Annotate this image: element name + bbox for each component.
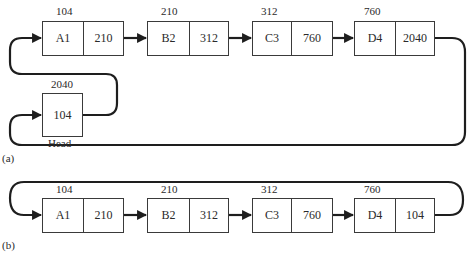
node-address: 312 xyxy=(261,183,278,195)
list-node-a1: A1 210 xyxy=(42,198,124,233)
head-address: 2040 xyxy=(51,78,73,90)
node-address: 104 xyxy=(56,183,73,195)
node-next-cell: 210 xyxy=(83,22,123,55)
list-node-c3: C3 760 xyxy=(252,198,333,233)
node-next-cell: 104 xyxy=(395,199,434,232)
node-address: 210 xyxy=(161,5,178,17)
node-data-cell: C3 xyxy=(253,22,291,55)
node-address: 760 xyxy=(364,183,381,195)
list-node-c3: C3 760 xyxy=(252,21,333,56)
node-next-cell: 210 xyxy=(83,199,123,232)
head-node: 104 xyxy=(42,93,83,137)
head-label: Head xyxy=(48,137,71,149)
node-address: 210 xyxy=(161,183,178,195)
node-address: 760 xyxy=(364,5,381,17)
node-data-cell: B2 xyxy=(148,199,189,232)
figure-caption-a: (a) xyxy=(2,152,14,164)
node-address: 312 xyxy=(261,5,278,17)
node-address: 104 xyxy=(56,5,73,17)
node-next-cell: 312 xyxy=(189,22,228,55)
list-node-b2: B2 312 xyxy=(147,21,229,56)
node-data-cell: B2 xyxy=(148,22,189,55)
figure-caption-b: (b) xyxy=(2,239,15,251)
node-data-cell: A1 xyxy=(43,199,83,232)
node-next-cell: 2040 xyxy=(395,22,434,55)
node-next-cell: 760 xyxy=(291,22,332,55)
node-next-cell: 312 xyxy=(189,199,228,232)
node-next-cell: 760 xyxy=(291,199,332,232)
node-data-cell: D4 xyxy=(355,199,395,232)
list-node-b2: B2 312 xyxy=(147,198,229,233)
list-node-d4: D4 2040 xyxy=(354,21,435,56)
list-node-d4: D4 104 xyxy=(354,198,435,233)
list-node-a1: A1 210 xyxy=(42,21,124,56)
node-data-cell: A1 xyxy=(43,22,83,55)
node-data-cell: C3 xyxy=(253,199,291,232)
node-data-cell: D4 xyxy=(355,22,395,55)
